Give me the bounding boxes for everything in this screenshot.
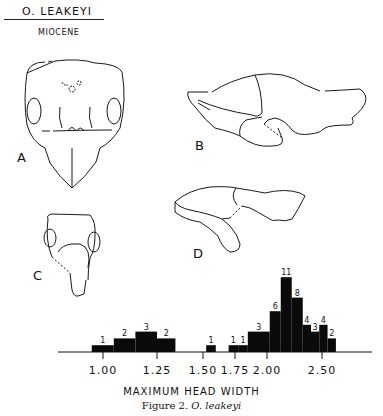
caption-prefix: Figure 2. [142, 400, 188, 411]
bar-count-label: 4 [304, 316, 309, 325]
histogram-bar [292, 298, 303, 352]
x-tick-label: 1.25 [143, 364, 172, 377]
bar-count-label: 1 [231, 336, 236, 345]
caption-species: O. leakeyi [191, 400, 241, 411]
bar-count-label: 11 [281, 268, 291, 277]
bar-count-label: 3 [144, 323, 149, 332]
histogram-bar [311, 332, 319, 352]
x-axis-label: MAXIMUM HEAD WIDTH [0, 386, 383, 397]
head-width-histogram: 1232111361184342 1.001.251.501.752.002.5… [0, 0, 383, 385]
histogram-bar [238, 345, 248, 352]
bar-count-label: 6 [273, 302, 278, 311]
bar-count-label: 3 [313, 323, 318, 332]
x-tick-label: 1.75 [221, 364, 250, 377]
histogram-bar [328, 338, 336, 352]
histogram-bar [157, 338, 175, 352]
histogram-bar [206, 345, 216, 352]
figure-caption: Figure 2. O. leakeyi [0, 400, 383, 411]
bar-count-label: 1 [100, 336, 105, 345]
x-tick-label: 2.00 [253, 364, 282, 377]
histogram-bar [281, 277, 292, 352]
bar-count-label: 1 [240, 336, 245, 345]
histogram-bar [135, 332, 157, 352]
histogram-bar [303, 325, 311, 352]
histogram-bar [92, 345, 114, 352]
bar-count-label: 4 [321, 316, 326, 325]
x-tick-label: 1.50 [189, 364, 218, 377]
bar-count-label: 1 [208, 336, 213, 345]
histogram-bar [270, 311, 281, 352]
bar-count-label: 8 [295, 289, 300, 298]
bar-count-label: 2 [164, 329, 169, 338]
x-tick-label: 1.00 [89, 364, 118, 377]
histogram-bar [319, 325, 327, 352]
x-tick-label: 2.50 [308, 364, 337, 377]
bar-count-label: 3 [256, 323, 261, 332]
bar-count-label: 2 [329, 329, 334, 338]
histogram-bar [248, 332, 270, 352]
bar-count-label: 2 [122, 329, 127, 338]
histogram-bar [229, 345, 239, 352]
histogram-bar [114, 338, 136, 352]
